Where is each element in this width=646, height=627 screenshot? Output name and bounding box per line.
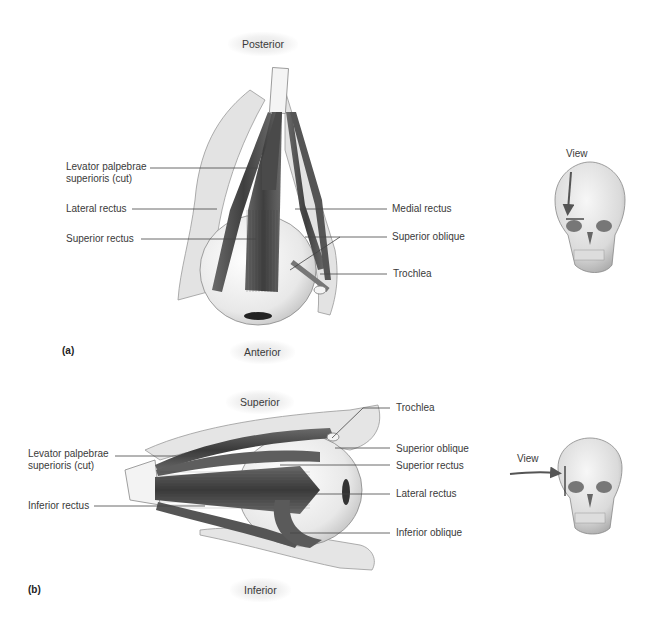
label-levator-palpebrae-b: Levator palpebrae superioris (cut) [28, 448, 138, 472]
panel-a-tag: (a) [62, 345, 74, 356]
label-superior-oblique-a: Superior oblique [392, 231, 465, 243]
view-label-b: View [517, 453, 539, 464]
label-lateral-rectus-b: Lateral rectus [396, 488, 457, 500]
illustration-canvas [0, 0, 646, 627]
label-inferior-rectus-b: Inferior rectus [28, 500, 89, 512]
eye-superior-view-illustration [178, 67, 337, 325]
view-label-a: View [566, 148, 588, 159]
orientation-posterior: Posterior [228, 32, 298, 56]
label-trochlea-b: Trochlea [396, 402, 435, 414]
label-levator-palpebrae-a: Levator palpebrae superioris (cut) [66, 161, 176, 185]
orientation-anterior: Anterior [230, 340, 295, 364]
label-superior-oblique-b: Superior oblique [396, 443, 469, 455]
label-medial-rectus-a: Medial rectus [392, 203, 451, 215]
skull-inset-a [555, 162, 625, 273]
label-superior-rectus-a: Superior rectus [66, 233, 134, 245]
orientation-inferior: Inferior [230, 578, 291, 602]
label-trochlea-a: Trochlea [393, 268, 432, 280]
label-superior-rectus-b: Superior rectus [396, 460, 464, 472]
eye-lateral-view-illustration [125, 405, 380, 570]
label-lateral-rectus-a: Lateral rectus [66, 203, 127, 215]
orientation-superior: Superior [226, 390, 294, 414]
panel-b-tag: (b) [28, 584, 41, 595]
label-inferior-oblique-b: Inferior oblique [396, 527, 462, 539]
